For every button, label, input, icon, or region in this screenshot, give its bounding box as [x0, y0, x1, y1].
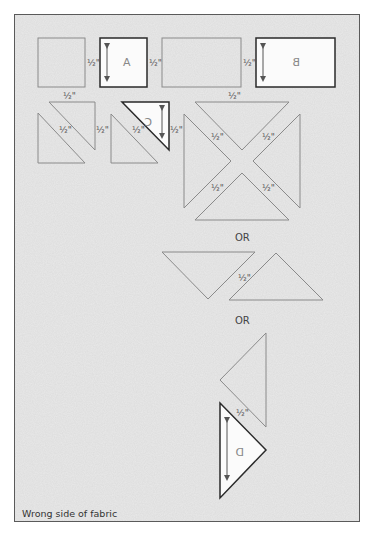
seam-label: ½"	[87, 58, 100, 68]
seam-label: ½"	[211, 132, 224, 142]
seam-label: ½"	[228, 91, 241, 101]
template-a: A	[100, 38, 147, 87]
seam-label: ½"	[149, 58, 162, 68]
fabric-caption: Wrong side of fabric	[22, 508, 117, 519]
template-b-label: B	[292, 56, 300, 69]
template-b: B	[256, 38, 335, 87]
or-label: OR	[235, 315, 250, 326]
seam-label: ½"	[59, 125, 72, 135]
seam-label: ½"	[96, 125, 109, 135]
template-d-label: D	[236, 446, 244, 459]
seam-label: ½"	[238, 273, 251, 283]
seam-label: ½"	[170, 125, 183, 135]
template-c-label: C	[144, 115, 152, 128]
seam-label: ½"	[211, 183, 224, 193]
seam-label: ½"	[262, 132, 275, 142]
or-label: OR	[235, 232, 250, 243]
seam-label: ½"	[132, 125, 145, 135]
template-a-label: A	[123, 56, 131, 69]
seam-label: ½"	[63, 91, 76, 101]
cutting-diagram: A B C D ½" ½" ½" ½" ½" ½" ½" ½"	[0, 0, 373, 537]
seam-label: ½"	[243, 58, 256, 68]
seam-label: ½"	[262, 183, 275, 193]
seam-label: ½"	[236, 408, 249, 418]
